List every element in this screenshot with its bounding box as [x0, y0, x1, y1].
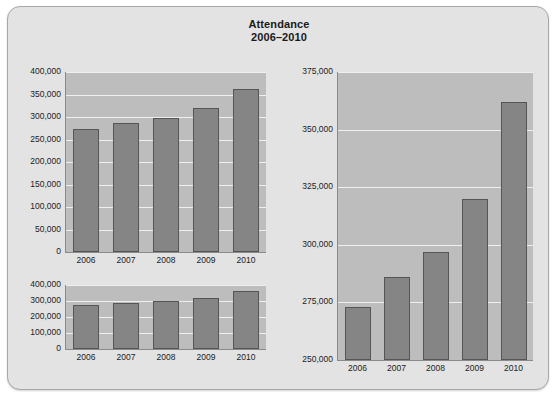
y-tick-label: 200,000	[9, 312, 61, 321]
bar	[233, 291, 259, 349]
x-tick-label: 2007	[106, 353, 146, 362]
bar	[501, 102, 527, 360]
bar	[193, 298, 219, 349]
y-axis-line	[65, 285, 66, 350]
y-tick-label: 375,000	[283, 67, 333, 76]
x-tick-label: 2007	[106, 256, 146, 265]
y-tick-label: 350,000	[283, 125, 333, 134]
y-tick-label: 50,000	[9, 225, 61, 234]
y-axis-line	[337, 72, 338, 361]
x-tick-label: 2009	[455, 364, 494, 373]
bar	[233, 89, 259, 252]
bar	[345, 307, 371, 360]
y-tick-label: 0	[9, 247, 61, 256]
y-tick-label: 300,000	[9, 112, 61, 121]
plot-wrap-top-left: 050,000100,000150,000200,000250,000300,0…	[8, 60, 283, 275]
bar	[423, 252, 449, 360]
y-tick-label: 275,000	[283, 297, 333, 306]
chart-right: 250,000275,000300,000325,000350,000375,0…	[283, 60, 549, 384]
bar	[193, 108, 219, 252]
y-tick-label: 400,000	[9, 280, 61, 289]
bar	[73, 305, 99, 349]
x-tick-label: 2007	[377, 364, 416, 373]
y-tick-label: 325,000	[283, 182, 333, 191]
chart-top-left: 050,000100,000150,000200,000250,000300,0…	[8, 60, 283, 275]
bar	[113, 123, 139, 252]
plot-wrap-right: 250,000275,000300,000325,000350,000375,0…	[283, 60, 549, 384]
x-axis-line	[337, 360, 533, 361]
chart-page: Attendance 2006–2010 050,000100,000150,0…	[0, 0, 556, 396]
title-line-1: Attendance	[8, 18, 549, 31]
x-tick-label: 2006	[66, 256, 106, 265]
y-axis-line	[65, 72, 66, 253]
x-tick-label: 2008	[146, 256, 186, 265]
y-tick-label: 250,000	[283, 355, 333, 364]
x-axis-line	[65, 252, 266, 253]
title-line-2: 2006–2010	[8, 31, 549, 44]
x-tick-label: 2006	[66, 353, 106, 362]
y-tick-label: 300,000	[283, 240, 333, 249]
x-tick-label: 2010	[226, 353, 266, 362]
bar	[113, 303, 139, 349]
gridline	[66, 72, 266, 73]
y-tick-label: 200,000	[9, 157, 61, 166]
x-tick-label: 2009	[186, 353, 226, 362]
y-tick-label: 100,000	[9, 202, 61, 211]
y-tick-label: 400,000	[9, 67, 61, 76]
x-tick-label: 2009	[186, 256, 226, 265]
bar	[384, 277, 410, 360]
x-tick-label: 2010	[494, 364, 533, 373]
bar	[462, 199, 488, 360]
x-tick-label: 2008	[146, 353, 186, 362]
bar	[73, 129, 99, 252]
y-tick-label: 300,000	[9, 296, 61, 305]
chart-bottom-left: 0100,000200,000300,000400,00020062007200…	[8, 279, 283, 384]
gridline	[66, 285, 266, 286]
x-tick-label: 2006	[338, 364, 377, 373]
bar	[153, 118, 179, 252]
x-tick-label: 2010	[226, 256, 266, 265]
x-axis-line	[65, 349, 266, 350]
y-tick-label: 100,000	[9, 328, 61, 337]
y-tick-label: 250,000	[9, 135, 61, 144]
plot-wrap-bottom-left: 0100,000200,000300,000400,00020062007200…	[8, 279, 283, 384]
gridline	[338, 72, 533, 73]
y-tick-label: 0	[9, 344, 61, 353]
chart-frame: Attendance 2006–2010 050,000100,000150,0…	[7, 6, 549, 390]
bar	[153, 301, 179, 349]
y-tick-label: 150,000	[9, 180, 61, 189]
x-tick-label: 2008	[416, 364, 455, 373]
y-tick-label: 350,000	[9, 90, 61, 99]
page-title: Attendance 2006–2010	[8, 18, 549, 44]
